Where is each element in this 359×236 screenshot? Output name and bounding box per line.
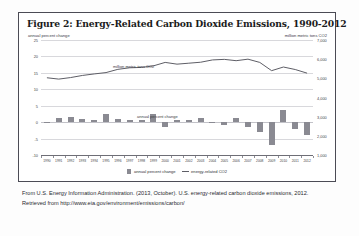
y-tick-label-right: 5,000 — [317, 76, 335, 81]
y-tick-label-right: 7,000 — [317, 38, 335, 43]
y-tick-label-right: 3,000 — [317, 115, 335, 120]
x-axis-ticks: 1990199119921993199419951996199719981999… — [41, 156, 313, 166]
figure-page: Figure 2: Energy-Related Carbon Dioxide … — [0, 0, 359, 236]
y-tick-label-right: 1,000 — [317, 153, 335, 158]
inner-label-bars: annual percent change — [137, 114, 178, 119]
page-title: Figure 2: Energy-Related Carbon Dioxide … — [27, 18, 347, 29]
figure-caption: From U.S. Energy Information Administrat… — [22, 189, 322, 208]
legend-square-icon — [127, 169, 132, 174]
figure-container: Figure 2: Energy-Related Carbon Dioxide … — [18, 12, 336, 182]
y-tick-label-left: 25 — [24, 38, 38, 43]
legend-label: annual percent change — [134, 169, 176, 174]
y-tick-label-left: 5 — [24, 104, 38, 109]
legend-item-bars: annual percent change — [127, 169, 176, 174]
y-tick-label-right: 4,000 — [317, 96, 335, 101]
x-tick-mark — [313, 156, 314, 158]
legend-label: energy-related CO2 — [191, 169, 227, 174]
line-series — [41, 40, 313, 155]
x-tick-label: 2012 — [300, 159, 314, 163]
y-tick-label-left: 0 — [24, 120, 38, 125]
y-tick-label-left: 15 — [24, 71, 38, 76]
y-tick-label-right: 2,000 — [317, 134, 335, 139]
y-tick-label-left: -10 — [24, 153, 38, 158]
line-path — [47, 59, 307, 79]
legend-item-line: energy-related CO2 — [182, 169, 227, 174]
legend-line-icon — [182, 171, 189, 172]
chart-legend: annual percent change energy-related CO2 — [19, 169, 335, 174]
plot-area: -10-50510152025 1,0002,0003,0004,0005,00… — [41, 40, 313, 155]
y-tick-label-left: 20 — [24, 54, 38, 59]
line-path-svg — [41, 40, 313, 155]
y-tick-label-left: 10 — [24, 87, 38, 92]
y-tick-label-left: -5 — [24, 137, 38, 142]
inner-label-line: million metric tons CO2 — [113, 64, 154, 69]
y-tick-label-right: 6,000 — [317, 57, 335, 62]
